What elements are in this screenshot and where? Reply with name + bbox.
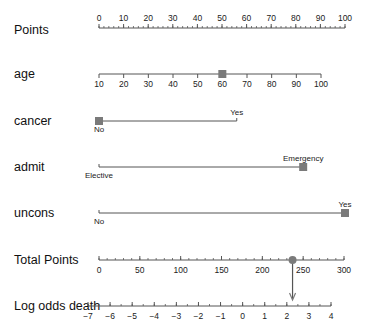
total-points-scale-tick-label: 100 [174, 265, 188, 275]
age-scale-tick-label: 20 [119, 79, 129, 89]
total-points-scale-tick-label: 200 [255, 265, 269, 275]
row-label-uncons: uncons [14, 206, 54, 220]
admit-marker [299, 163, 307, 171]
points-scale-tick-label: 50 [217, 13, 227, 23]
log-odds-scale-tick-label: −2 [194, 311, 204, 321]
total-points-scale-tick-label: 50 [135, 265, 145, 275]
log-odds-scale-tick-label: −1 [216, 311, 226, 321]
points-scale-tick-label: 100 [338, 13, 352, 23]
uncons-marker [341, 209, 349, 217]
age-scale-tick-label: 10 [94, 79, 104, 89]
age-scale-tick-label: 40 [168, 79, 178, 89]
log-odds-scale-tick-label: −7 [83, 311, 93, 321]
cancer-level-no: No [94, 125, 105, 134]
nomogram-scales: 0102030405060708090100102030405060708090… [83, 13, 352, 321]
uncons-level-yes: Yes [338, 200, 351, 209]
points-scale-tick-label: 0 [97, 13, 102, 23]
log-odds-scale-tick-label: −5 [127, 311, 137, 321]
points-scale-tick-label: 20 [143, 13, 153, 23]
age-scale-tick-label: 90 [292, 79, 302, 89]
log-odds-scale-tick-label: −6 [105, 311, 115, 321]
log-odds-scale-tick-label: 0 [240, 311, 245, 321]
age-scale-tick-label: 70 [242, 79, 252, 89]
points-scale-tick-label: 80 [291, 13, 301, 23]
total-points-scale-tick-label: 150 [214, 265, 228, 275]
age-scale-tick-label: 60 [218, 79, 228, 89]
row-label-total-points: Total Points [14, 253, 79, 267]
cancer-level-yes: Yes [230, 108, 243, 117]
row-label-points: Points [14, 23, 49, 37]
total-points-marker [289, 256, 297, 264]
admit-level-emergency: Emergency [283, 154, 323, 163]
points-scale-tick-label: 70 [266, 13, 276, 23]
log-odds-scale-tick-label: −4 [149, 311, 159, 321]
total-points-scale-tick-label: 300 [337, 265, 351, 275]
nomogram-chart: Points age cancer admit uncons Total Poi… [0, 0, 365, 334]
log-odds-scale-tick-label: −3 [172, 311, 182, 321]
points-scale-tick-label: 10 [119, 13, 129, 23]
age-scale-tick-label: 30 [144, 79, 154, 89]
admit-level-elective: Elective [85, 171, 114, 180]
points-scale-tick-label: 30 [168, 13, 178, 23]
age-scale-tick-label: 80 [267, 79, 277, 89]
row-label-cancer: cancer [14, 114, 52, 128]
points-scale-tick-label: 60 [242, 13, 252, 23]
log-odds-scale-tick-label: 3 [307, 311, 312, 321]
row-label-admit: admit [14, 160, 45, 174]
log-odds-scale-tick-label: 1 [262, 311, 267, 321]
age-marker [218, 70, 226, 78]
uncons-level-no: No [94, 217, 105, 226]
points-scale-tick-label: 40 [193, 13, 203, 23]
total-points-scale-tick-label: 0 [97, 265, 102, 275]
age-scale-tick-label: 50 [193, 79, 203, 89]
age-scale-tick-label: 100 [314, 79, 328, 89]
log-odds-scale-tick-label: 2 [284, 311, 289, 321]
total-points-scale-tick-label: 250 [296, 265, 310, 275]
cancer-marker [95, 117, 103, 125]
row-label-age: age [14, 67, 35, 81]
points-scale-tick-label: 90 [316, 13, 326, 23]
log-odds-scale-tick-label: 4 [329, 311, 334, 321]
